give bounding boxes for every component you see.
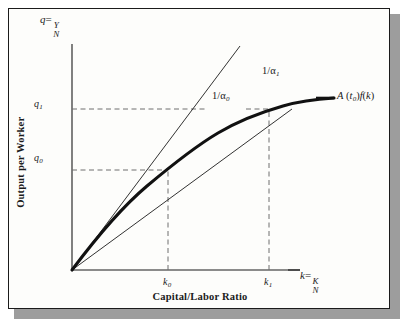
figure-root: Output per Worker Capital/Labor Ratio q=… bbox=[0, 0, 406, 329]
curve-label-A: A bbox=[337, 90, 343, 101]
chart-canvas bbox=[0, 0, 406, 329]
y-axis-title: Output per Worker bbox=[16, 97, 27, 227]
x-variable-equals: = bbox=[305, 269, 311, 281]
y-tick-q1-subscript: 1 bbox=[39, 103, 43, 111]
x-variable-fraction: KN bbox=[312, 277, 320, 295]
y-tick-label-q0: q0 bbox=[34, 153, 43, 165]
x-variable-denominator: N bbox=[312, 286, 320, 295]
x-axis-variable-expression: k=KN bbox=[300, 270, 320, 295]
y-tick-label-q1: q1 bbox=[34, 99, 43, 111]
y-tick-q0-subscript: 0 bbox=[39, 157, 43, 165]
x-tick-label-k0: k0 bbox=[163, 277, 171, 289]
slope0-alpha-icon: α bbox=[220, 90, 226, 101]
ray-slope-alpha1 bbox=[72, 109, 292, 270]
y-axis-variable-expression: q=YN bbox=[40, 14, 61, 39]
y-variable-fraction: YN bbox=[52, 21, 60, 39]
slope0-subscript: 0 bbox=[226, 95, 230, 103]
x-tick-label-k1: k1 bbox=[264, 277, 272, 289]
slope1-subscript: 1 bbox=[276, 70, 280, 78]
x-tick-k1-subscript: 1 bbox=[269, 281, 273, 289]
slope1-alpha-icon: α bbox=[270, 65, 276, 76]
x-tick-k0-subscript: 0 bbox=[168, 281, 172, 289]
y-variable-denominator: N bbox=[52, 30, 60, 39]
curve-label-arg-close: ) bbox=[371, 90, 375, 101]
x-tick-k1-name: k bbox=[264, 276, 268, 287]
production-function-label: A (t0)f(k) bbox=[337, 91, 374, 103]
x-tick-k0-name: k bbox=[163, 276, 167, 287]
y-variable-equals: = bbox=[46, 13, 52, 25]
x-axis-title: Capital/Labor Ratio bbox=[120, 292, 280, 303]
slope-alpha0-label: 1/α0 bbox=[212, 91, 229, 103]
production-function-curve bbox=[72, 98, 334, 270]
slope-alpha1-label: 1/α1 bbox=[262, 66, 279, 78]
